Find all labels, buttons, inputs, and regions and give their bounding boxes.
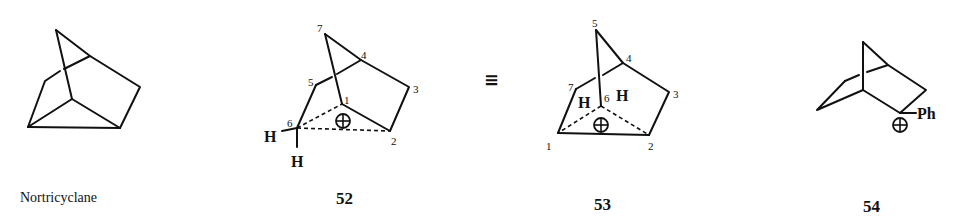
bond bbox=[863, 42, 926, 113]
structure-54: Ph 54 bbox=[817, 42, 936, 216]
bond bbox=[28, 127, 120, 128]
equivalence-symbol: ≡ bbox=[484, 69, 499, 90]
atom-number: 1 bbox=[344, 94, 350, 106]
bond bbox=[72, 99, 120, 128]
atom-number: 5 bbox=[592, 17, 598, 29]
positive-charge-icon bbox=[893, 118, 907, 132]
atom-number: 7 bbox=[568, 81, 574, 93]
hydrogen-label: H bbox=[264, 128, 277, 145]
bond bbox=[28, 99, 72, 127]
bond bbox=[576, 78, 595, 89]
atom-number: 6 bbox=[604, 92, 610, 104]
bond bbox=[863, 90, 900, 113]
hydrogen-label: H bbox=[616, 87, 629, 104]
atom-number: 5 bbox=[308, 76, 314, 88]
atom-number: 6 bbox=[287, 117, 293, 129]
bond bbox=[596, 30, 669, 135]
bond bbox=[817, 81, 863, 110]
bond bbox=[56, 30, 140, 128]
atom-number: 3 bbox=[673, 88, 679, 100]
bond bbox=[558, 133, 649, 135]
hydrogen-label: H bbox=[291, 153, 304, 170]
bond bbox=[845, 75, 859, 81]
atom-number: 3 bbox=[413, 83, 419, 95]
bond bbox=[28, 71, 60, 127]
structure-53: H H 1 2 3 4 5 6 7 53 bbox=[546, 17, 679, 214]
partial-bond bbox=[297, 104, 342, 128]
positive-charge-icon bbox=[594, 118, 608, 132]
caption-53: 53 bbox=[594, 195, 611, 214]
bond bbox=[867, 65, 888, 72]
atom-number: 4 bbox=[626, 52, 632, 64]
bond bbox=[558, 89, 576, 133]
atom-number: 1 bbox=[546, 140, 552, 152]
bond bbox=[337, 60, 361, 74]
bond bbox=[603, 63, 623, 75]
atom-number: 4 bbox=[361, 49, 367, 61]
chemistry-figure: Nortricyclane H H 1 2 3 4 5 6 7 52 bbox=[0, 0, 971, 224]
caption-52: 52 bbox=[336, 189, 353, 208]
partial-bond bbox=[601, 106, 649, 135]
caption-nortricyclane: Nortricyclane bbox=[20, 190, 97, 205]
atom-number: 2 bbox=[648, 140, 654, 152]
atom-number: 2 bbox=[391, 135, 397, 147]
structure-nortricyclane: Nortricyclane bbox=[20, 30, 140, 205]
atom-number: 7 bbox=[317, 22, 323, 34]
phenyl-label: Ph bbox=[917, 105, 936, 122]
bond bbox=[64, 56, 90, 69]
positive-charge-icon bbox=[336, 114, 350, 128]
caption-54: 54 bbox=[863, 197, 881, 216]
bond bbox=[316, 77, 332, 85]
structure-52: H H 1 2 3 4 5 6 7 52 bbox=[264, 22, 419, 208]
bond bbox=[297, 85, 316, 128]
bond bbox=[596, 30, 601, 106]
hydrogen-label: H bbox=[578, 94, 591, 111]
